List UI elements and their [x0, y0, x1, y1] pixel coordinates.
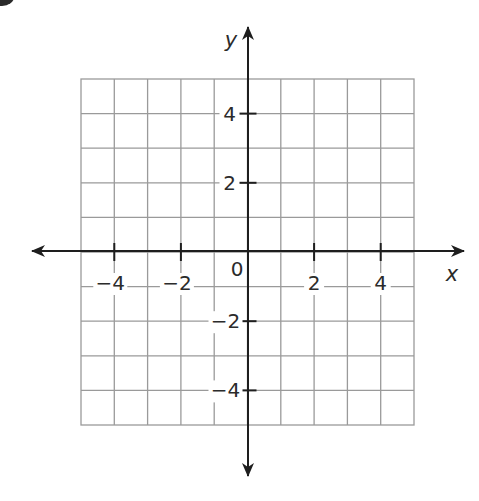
origin-label: 0 — [231, 257, 244, 281]
y-tick-label: −2 — [211, 309, 240, 333]
x-axis-label: x — [445, 262, 459, 286]
x-tick-label: −2 — [162, 271, 191, 295]
y-axis-label: y — [224, 28, 238, 52]
y-tick-label: −4 — [211, 378, 240, 402]
y-tick-label: 4 — [223, 102, 236, 126]
coordinate-plane: −4−22442−2−4 0 x y — [0, 0, 479, 501]
y-tick-label: 2 — [223, 171, 236, 195]
x-tick-label: 4 — [374, 271, 387, 295]
x-tick-label: −4 — [96, 271, 125, 295]
x-tick-label: 2 — [308, 271, 321, 295]
